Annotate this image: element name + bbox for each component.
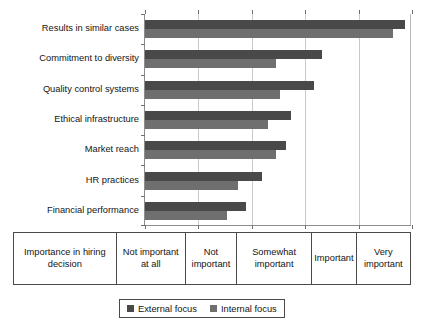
x-axis-tick	[145, 10, 146, 14]
x-axis-tick	[305, 225, 306, 229]
y-axis-tick	[141, 165, 145, 166]
category-label: Results in similar cases	[0, 23, 139, 33]
bar-internal-focus	[145, 211, 227, 220]
rating-cell-label: Very important	[359, 247, 408, 270]
y-axis-tick	[141, 14, 145, 15]
bar-external-focus	[145, 111, 291, 120]
x-axis-tick	[145, 225, 146, 229]
legend-swatch-icon	[127, 305, 134, 312]
legend-item-internal-focus: Internal focus	[210, 304, 277, 314]
rating-row-label: Importance in hiring decision	[16, 247, 114, 270]
rating-scale-table: Importance in hiring decision Not import…	[13, 232, 411, 285]
category-label: Market reach	[0, 144, 139, 154]
bar-internal-focus	[145, 59, 276, 68]
category-label: HR practices	[0, 175, 139, 185]
bar-external-focus	[145, 50, 322, 59]
rating-cell-somewhat-important: Somewhat important	[237, 233, 312, 284]
bar-external-focus	[145, 172, 262, 181]
y-axis-tick	[141, 196, 145, 197]
rating-cell-label: Important	[314, 253, 353, 265]
gridline	[359, 14, 360, 225]
y-axis-tick	[141, 75, 145, 76]
rating-row-label-cell: Importance in hiring decision	[14, 233, 117, 284]
rating-cell-label: Somewhat important	[239, 247, 309, 270]
legend-label: External focus	[138, 304, 197, 314]
x-axis-tick	[305, 10, 306, 14]
bar-internal-focus	[145, 120, 268, 129]
x-axis-tick	[252, 225, 253, 229]
category-label: Commitment to diversity	[0, 53, 139, 63]
y-axis-tick	[141, 225, 145, 226]
bar-internal-focus	[145, 181, 238, 190]
legend-label: Internal focus	[221, 304, 277, 314]
chart-legend: External focus Internal focus	[119, 299, 285, 318]
legend-swatch-icon	[210, 305, 217, 312]
rating-cell-label: Not important	[188, 247, 234, 270]
rating-cell-not-important: Not important	[186, 233, 237, 284]
bar-external-focus	[145, 202, 246, 211]
plot-area	[144, 14, 411, 226]
y-axis-tick	[141, 135, 145, 136]
rating-cell-important: Important	[312, 233, 356, 284]
x-axis-tick	[359, 10, 360, 14]
x-axis-tick	[412, 225, 413, 229]
rating-cell-label: Not important at all	[119, 247, 183, 270]
category-label: Ethical infrastructure	[0, 114, 139, 124]
bar-internal-focus	[145, 150, 276, 159]
rating-cell-not-important-at-all: Not important at all	[117, 233, 186, 284]
y-axis-tick	[141, 105, 145, 106]
x-axis-tick	[412, 10, 413, 14]
bar-internal-focus	[145, 90, 280, 99]
bar-internal-focus	[145, 29, 393, 38]
x-axis-tick	[359, 225, 360, 229]
bar-external-focus	[145, 81, 314, 90]
bar-external-focus	[145, 141, 286, 150]
rating-cell-very-important: Very important	[357, 233, 410, 284]
category-label: Quality control systems	[0, 84, 139, 94]
gridline	[305, 14, 306, 225]
category-label: Financial performance	[0, 205, 139, 215]
horizontal-bar-chart: Results in similar casesCommitment to di…	[0, 0, 429, 330]
legend-item-external-focus: External focus	[127, 304, 197, 314]
x-axis-tick	[198, 225, 199, 229]
bar-external-focus	[145, 20, 405, 29]
x-axis-tick	[252, 10, 253, 14]
x-axis-tick	[198, 10, 199, 14]
y-axis-tick	[141, 44, 145, 45]
